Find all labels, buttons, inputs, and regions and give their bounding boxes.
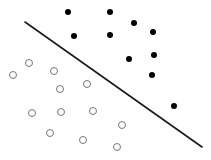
data-point-open bbox=[10, 72, 17, 79]
data-point-open bbox=[29, 110, 36, 117]
data-point-open bbox=[51, 68, 58, 75]
data-point-open bbox=[90, 108, 97, 115]
data-point-filled bbox=[131, 20, 137, 26]
decision-boundary-layer bbox=[25, 22, 202, 147]
data-point-filled bbox=[150, 29, 156, 35]
data-point-filled bbox=[126, 56, 132, 62]
data-point-open bbox=[80, 137, 87, 144]
data-point-filled bbox=[107, 9, 113, 15]
decision-boundary bbox=[25, 22, 202, 147]
data-point-filled bbox=[65, 9, 71, 15]
plot-canvas bbox=[0, 0, 211, 160]
class-negative-layer bbox=[10, 60, 126, 151]
data-point-filled bbox=[149, 72, 155, 78]
data-point-open bbox=[119, 122, 126, 129]
data-point-open bbox=[58, 109, 65, 116]
data-point-open bbox=[47, 130, 54, 137]
scatter-plot-figure bbox=[0, 0, 211, 160]
data-point-open bbox=[26, 60, 33, 67]
data-point-open bbox=[114, 144, 121, 151]
data-point-open bbox=[57, 86, 64, 93]
data-point-filled bbox=[171, 103, 177, 109]
data-point-filled bbox=[151, 52, 157, 58]
data-point-filled bbox=[71, 33, 77, 39]
data-point-filled bbox=[107, 32, 113, 38]
class-positive-layer bbox=[65, 9, 177, 109]
data-point-open bbox=[84, 81, 91, 88]
